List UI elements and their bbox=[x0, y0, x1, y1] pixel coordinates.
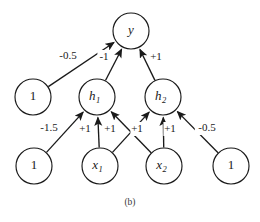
node-label-b2: 1 bbox=[31, 157, 38, 172]
node-label-b1: 1 bbox=[30, 88, 37, 103]
node-h2[interactable]: h2 bbox=[145, 79, 181, 115]
node-b3[interactable]: 1 bbox=[213, 148, 249, 184]
neural-network-figure: yh1h211x1x21 -0.5-1+1-1.5+1+1+1+1-0.5 (b… bbox=[0, 0, 260, 222]
nodes-layer: yh1h211x1x21 bbox=[15, 13, 249, 184]
node-b2[interactable]: 1 bbox=[16, 148, 52, 184]
node-h1[interactable]: h1 bbox=[79, 79, 115, 115]
node-y[interactable]: y bbox=[113, 13, 149, 49]
node-label-b3: 1 bbox=[228, 157, 235, 172]
weight-label-x2-h1: +1 bbox=[104, 122, 116, 134]
weight-label-h1-y: -1 bbox=[99, 50, 108, 62]
node-subscript-h1: 1 bbox=[96, 95, 100, 105]
node-subscript-x1: 1 bbox=[99, 164, 103, 174]
weight-label-x1-h1: +1 bbox=[79, 122, 91, 134]
weight-label-h2-y: +1 bbox=[150, 50, 162, 62]
edge-x1-h1 bbox=[98, 117, 99, 147]
weight-labels-layer: -0.5-1+1-1.5+1+1+1+1-0.5 bbox=[37, 49, 219, 136]
node-x2[interactable]: x2 bbox=[146, 148, 182, 184]
node-b1[interactable]: 1 bbox=[15, 79, 51, 115]
network-diagram-canvas: yh1h211x1x21 -0.5-1+1-1.5+1+1+1+1-0.5 (b… bbox=[0, 0, 260, 222]
weight-label-x1-h2: +1 bbox=[131, 122, 143, 134]
weight-label-b1-y: -0.5 bbox=[59, 49, 77, 61]
node-x1[interactable]: x1 bbox=[82, 148, 118, 184]
weight-label-b3-h2: -0.5 bbox=[198, 121, 216, 133]
figure-caption: (b) bbox=[124, 197, 135, 208]
weight-label-b2-h1: -1.5 bbox=[40, 121, 58, 133]
weight-label-x2-h2: +1 bbox=[164, 122, 176, 134]
node-label-y: y bbox=[126, 22, 134, 37]
